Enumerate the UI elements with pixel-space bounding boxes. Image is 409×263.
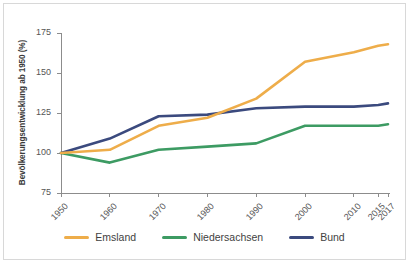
- series-line-niedersachsen: [61, 124, 388, 162]
- axes-group: [57, 33, 390, 197]
- plot-area: [0, 0, 409, 263]
- legend-color-swatch: [64, 236, 89, 239]
- legend-label: Bund: [320, 231, 345, 243]
- series-line-emsland: [61, 44, 388, 153]
- chart-legend: EmslandNiedersachsenBund: [0, 231, 409, 243]
- legend-color-swatch: [162, 236, 187, 239]
- series-lines-group: [61, 44, 388, 162]
- chart-container: Bevölkerungsentwicklung ab 1950 (%) 7510…: [0, 0, 409, 263]
- legend-item-niedersachsen[interactable]: Niedersachsen: [162, 231, 263, 243]
- legend-color-swatch: [289, 236, 314, 239]
- legend-label: Emsland: [95, 231, 136, 243]
- legend-item-bund[interactable]: Bund: [289, 231, 345, 243]
- legend-label: Niedersachsen: [193, 231, 263, 243]
- legend-item-emsland[interactable]: Emsland: [64, 231, 136, 243]
